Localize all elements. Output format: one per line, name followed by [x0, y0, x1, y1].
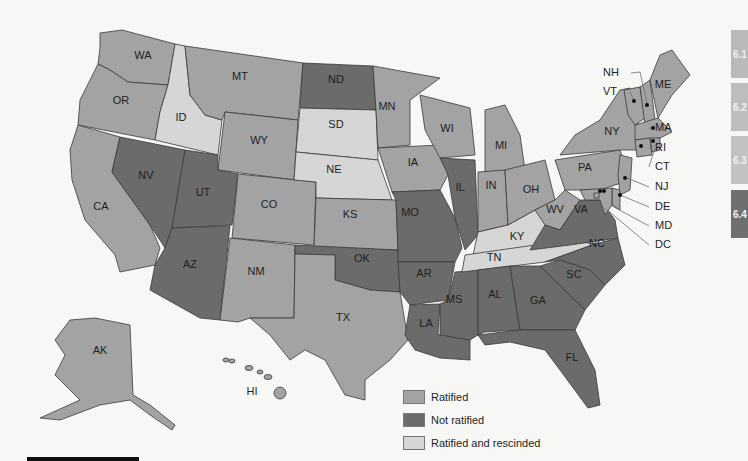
state-label-ks: KS	[343, 208, 358, 220]
legend-swatch-not-ratified	[403, 413, 425, 427]
state-ND	[300, 63, 376, 110]
state-label-oh: OH	[523, 183, 540, 195]
callout-line-de	[620, 195, 649, 207]
callout-label-md: MD	[655, 219, 672, 231]
state-NM	[220, 238, 295, 322]
side-tab-label: 6.1	[733, 49, 747, 60]
state-label-hi: HI	[247, 385, 258, 397]
state-label-wv: WV	[546, 203, 564, 215]
state-label-nm: NM	[247, 265, 264, 277]
state-label-ne: NE	[326, 163, 341, 175]
legend-swatch-rescinded	[403, 436, 425, 450]
state-SD	[296, 108, 378, 160]
state-label-wi: WI	[440, 122, 453, 134]
callout-label-nj: NJ	[655, 180, 668, 192]
state-label-tn: TN	[487, 251, 502, 263]
state-label-va: VA	[574, 203, 589, 215]
state-NJ	[618, 155, 632, 195]
state-label-ms: MS	[446, 293, 463, 305]
state-label-in: IN	[486, 179, 497, 191]
state-label-al: AL	[488, 288, 501, 300]
legend-item-ratified: Ratified	[403, 385, 540, 408]
side-tab-6-3[interactable]: 6.3	[731, 136, 748, 184]
callout-label-ma: MA	[655, 121, 672, 133]
state-label-ia: IA	[408, 156, 419, 168]
legend-label: Ratified	[431, 391, 468, 403]
legend-swatch-ratified	[403, 390, 425, 404]
side-tab-6-2[interactable]: 6.2	[731, 83, 748, 131]
state-label-az: AZ	[183, 258, 197, 270]
side-tab-6-4[interactable]: 6.4	[731, 190, 748, 238]
state-label-ut: UT	[196, 186, 211, 198]
callout-dot-md	[598, 189, 602, 193]
state-label-ca: CA	[93, 200, 109, 212]
state-label-ny: NY	[604, 125, 620, 137]
state-label-la: LA	[419, 317, 433, 329]
state-label-fl: FL	[566, 351, 579, 363]
state-label-me: ME	[655, 78, 672, 90]
state-label-wy: WY	[250, 134, 268, 146]
legend-item-rescinded: Ratified and rescinded	[403, 431, 540, 454]
state-KS	[314, 198, 398, 250]
callout-label-ri: RI	[655, 141, 666, 153]
state-label-sd: SD	[328, 118, 343, 130]
state-DC	[594, 193, 599, 198]
callout-label-vt: VT	[603, 85, 617, 97]
legend-label: Ratified and rescinded	[431, 437, 540, 449]
state-label-ok: OK	[354, 252, 371, 264]
state-MT	[185, 46, 303, 120]
state-AK	[40, 318, 175, 430]
legend-label: Not ratified	[431, 414, 484, 426]
state-label-or: OR	[113, 94, 130, 106]
callout-dot-vt	[632, 99, 636, 103]
state-MO	[392, 190, 462, 262]
map-legend: Ratified Not ratified Ratified and resci…	[403, 385, 540, 454]
state-label-wa: WA	[134, 49, 152, 61]
state-label-mt: MT	[232, 70, 248, 82]
state-label-mi: MI	[495, 139, 507, 151]
state-label-tx: TX	[336, 311, 351, 323]
side-tab-label: 6.4	[733, 209, 747, 220]
legend-item-not-ratified: Not ratified	[403, 408, 540, 431]
state-label-ky: KY	[510, 230, 525, 242]
state-label-co: CO	[261, 198, 278, 210]
callout-label-nh: NH	[603, 66, 619, 78]
side-tab-6-1[interactable]: 6.1	[731, 30, 748, 78]
state-label-il: IL	[455, 181, 464, 193]
state-WY	[218, 112, 298, 180]
state-label-mn: MN	[378, 100, 395, 112]
callout-dot-dc	[602, 189, 606, 193]
state-label-ar: AR	[416, 267, 431, 279]
state-label-nc: NC	[589, 237, 605, 249]
side-tab-label: 6.2	[733, 102, 747, 113]
callout-label-de: DE	[655, 200, 670, 212]
state-label-mo: MO	[401, 206, 419, 218]
callout-dot-nj	[623, 176, 627, 180]
state-label-ga: GA	[530, 294, 547, 306]
state-label-pa: PA	[578, 161, 593, 173]
state-label-nv: NV	[138, 169, 154, 181]
state-label-id: ID	[176, 111, 187, 123]
state-label-nd: ND	[328, 73, 344, 85]
callout-label-dc: DC	[655, 238, 671, 250]
us-era-ratification-map: WAORCAIDNVMTWYUTAZCONMNDSDNEKSOKTXMNIAMO…	[0, 0, 748, 461]
callout-dot-de	[618, 193, 622, 197]
callout-label-ct: CT	[655, 160, 670, 172]
callout-dot-ct	[639, 144, 643, 148]
page-rule	[27, 457, 139, 461]
side-tab-label: 6.3	[733, 155, 747, 166]
callout-line-md	[612, 206, 649, 226]
state-label-ak: AK	[93, 344, 108, 356]
callout-dot-nh	[645, 103, 649, 107]
state-label-sc: SC	[566, 268, 581, 280]
